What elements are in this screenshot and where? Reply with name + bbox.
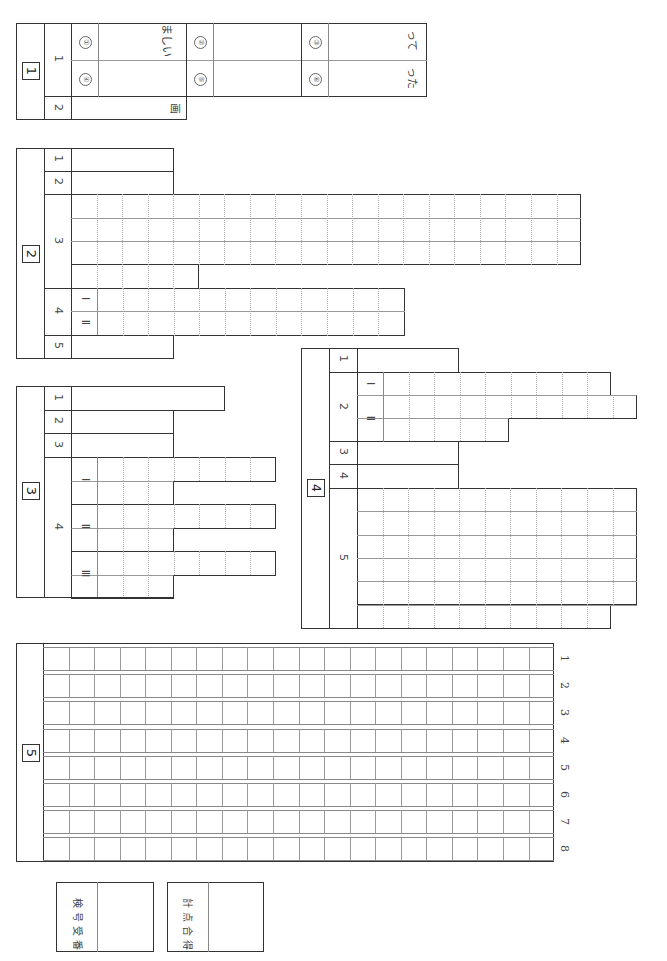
marker-2: ② (194, 36, 207, 49)
q3-4-part-2: Ⅱ (79, 520, 92, 534)
q2-4-part-1: Ⅰ (79, 292, 92, 306)
section-4-badge: 4 (307, 479, 325, 497)
q4-5-label: 5 (337, 550, 350, 566)
answer-field-5[interactable] (214, 61, 300, 96)
row-number-8: 8 (558, 842, 571, 856)
marker-1: ① (79, 36, 92, 49)
answer-grid-4-5[interactable] (357, 488, 637, 605)
q4-1-label: 1 (337, 351, 350, 367)
answer-field-6[interactable] (329, 61, 425, 96)
q2-4-part-2: Ⅱ (79, 316, 92, 330)
q3-3-label: 3 (52, 437, 65, 453)
answer-field-4[interactable] (99, 61, 185, 96)
marker-5: ⑤ (194, 73, 207, 86)
row-number-1: 1 (558, 652, 571, 666)
answer-grid-2-3-bottom[interactable] (71, 264, 199, 289)
exam-number-label-a: 受番 (71, 926, 86, 946)
q3-4-part-1: Ⅰ (79, 473, 92, 487)
row-number-5: 5 (558, 760, 571, 774)
q4-2-label: 2 (337, 399, 350, 415)
exam-number-label-b: 検号 (71, 898, 86, 918)
row-number-7: 7 (558, 815, 571, 829)
q4-4-label: 4 (337, 468, 350, 484)
marker-6: ⑥ (309, 73, 322, 86)
answer-grid-4-2-2a[interactable] (357, 395, 637, 419)
total-score-field[interactable] (209, 883, 262, 951)
marker-3: ③ (309, 36, 322, 49)
q3-1-label: 1 (52, 390, 65, 406)
q3-2-label: 2 (52, 413, 65, 429)
q2-2-label: 2 (52, 174, 65, 190)
q4-3-label: 3 (337, 444, 350, 460)
q3-4-label: 4 (52, 519, 65, 535)
answer-1-2-suffix: 画 (168, 100, 184, 116)
total-score-label-a: 合得 (181, 926, 196, 946)
answer-grid-4-2-2b[interactable] (357, 418, 509, 442)
row-number-2: 2 (558, 679, 571, 693)
marker-4: ④ (79, 73, 92, 86)
section-3-badge: 3 (22, 482, 40, 500)
answer-field-1[interactable] (99, 24, 185, 59)
q1-1-label: 1 (52, 51, 65, 67)
q2-3-label: 3 (52, 233, 65, 249)
q2-5-label: 5 (52, 338, 65, 354)
row-number-6: 6 (558, 788, 571, 802)
row-number-3: 3 (558, 706, 571, 720)
answer-field-2[interactable] (214, 24, 300, 59)
answer-grid-4-2-1[interactable] (357, 372, 611, 396)
q3-4-part-3: Ⅲ (79, 567, 92, 581)
section-1-badge: 1 (22, 62, 40, 80)
section-5-badge: 5 (22, 744, 40, 762)
q2-1-label: 1 (52, 151, 65, 167)
row-number-4: 4 (558, 733, 571, 747)
exam-number-field[interactable] (98, 883, 152, 951)
section-2-badge: 2 (22, 245, 40, 263)
total-score-label-b: 計点 (181, 898, 196, 918)
q2-4-label: 4 (52, 303, 65, 319)
q1-2-label: 2 (52, 100, 65, 116)
answer-field-3[interactable] (329, 24, 425, 59)
